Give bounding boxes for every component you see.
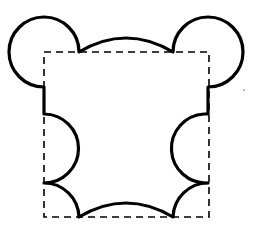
diagram-svg bbox=[0, 0, 256, 236]
diagram-canvas bbox=[0, 0, 256, 236]
noise-dot bbox=[243, 89, 245, 91]
